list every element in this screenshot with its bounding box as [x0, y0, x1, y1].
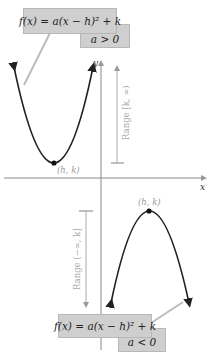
bottom-range-label: Range (−∞, k] [72, 228, 82, 290]
x-axis-label: x [200, 182, 205, 192]
downward-parabola [111, 211, 189, 303]
bottom-vertex-point [146, 208, 151, 213]
y-axis-label: y [92, 58, 99, 68]
top-equation-box: f(x) = a(x − h)² + k [23, 8, 117, 34]
top-vertex-label: (h, k) [57, 165, 80, 175]
top-condition-text: a > 0 [91, 33, 119, 45]
top-equation-text: f(x) = a(x − h)² + k [19, 15, 121, 27]
bottom-vertex-label: (h, k) [138, 197, 161, 207]
top-range-label: Range [k, ∞) [121, 85, 131, 140]
bottom-equation-text: f(x) = a(x − h)² + k [54, 320, 156, 332]
top-vertex-point [51, 160, 56, 165]
parabola-diagram: x y (h, k) Range [k, ∞) (h, k) Range (−∞… [0, 0, 209, 363]
bottom-equation-box: f(x) = a(x − h)² + k [58, 314, 152, 338]
top-leader-line [24, 33, 50, 85]
